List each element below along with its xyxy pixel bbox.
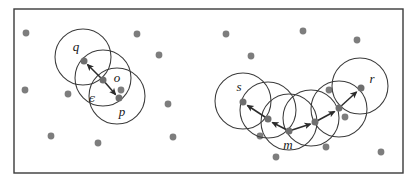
noise-dot-2 bbox=[134, 31, 141, 38]
noise-dot-12 bbox=[248, 53, 255, 60]
point-chain-1 bbox=[265, 116, 272, 123]
label-p: p bbox=[118, 104, 126, 119]
noise-dot-4 bbox=[22, 87, 29, 94]
figure-root: q o p ϵ bbox=[0, 0, 416, 184]
noise-dot-5 bbox=[65, 91, 72, 98]
noise-dot-11 bbox=[223, 31, 230, 38]
label-o: o bbox=[114, 70, 121, 85]
noise-dot-10 bbox=[170, 134, 177, 141]
noise-dot-13 bbox=[300, 28, 307, 35]
label-q: q bbox=[73, 39, 80, 54]
label-epsilon: ϵ bbox=[89, 91, 96, 105]
point-m bbox=[286, 128, 293, 135]
noise-dot-14 bbox=[354, 37, 361, 44]
noise-dot-20 bbox=[342, 114, 349, 121]
left-cluster: q o p ϵ bbox=[55, 29, 145, 124]
right-cluster: s m r bbox=[215, 58, 388, 152]
point-r bbox=[358, 85, 365, 92]
point-p bbox=[116, 95, 123, 102]
label-s: s bbox=[236, 79, 241, 94]
noise-dot-16 bbox=[326, 87, 333, 94]
label-r: r bbox=[369, 71, 375, 86]
noise-dot-9 bbox=[95, 140, 102, 147]
frame-border bbox=[14, 9, 403, 173]
noise-dot-1 bbox=[23, 30, 30, 37]
noise-dot-6 bbox=[118, 87, 125, 94]
point-q bbox=[81, 58, 88, 65]
point-o bbox=[100, 77, 107, 84]
left-labels: q o p ϵ bbox=[73, 39, 126, 119]
noise-dot-19 bbox=[378, 149, 385, 156]
right-arrows bbox=[248, 92, 357, 131]
point-chain-4 bbox=[336, 105, 343, 112]
noise-dot-3 bbox=[156, 52, 163, 59]
noise-dot-8 bbox=[48, 133, 55, 140]
noise-dot-18 bbox=[273, 154, 280, 161]
figure-frame bbox=[14, 9, 403, 173]
point-chain-3 bbox=[312, 119, 319, 126]
label-m: m bbox=[283, 137, 292, 152]
noise-dot-17 bbox=[323, 144, 330, 151]
arrow-chain4-to-r bbox=[339, 92, 357, 108]
density-reachability-diagram: q o p ϵ bbox=[0, 0, 416, 184]
noise-dot-7 bbox=[165, 101, 172, 108]
point-s bbox=[240, 99, 247, 106]
